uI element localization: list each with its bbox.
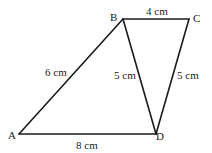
edge-label-ab: 6 cm: [45, 66, 67, 78]
edge-label-ad: 8 cm: [76, 139, 98, 151]
edge-label-bc: 4 cm: [146, 5, 168, 17]
edge-labels: 6 cm 4 cm 5 cm 5 cm 8 cm: [45, 5, 199, 151]
edge-label-bd: 5 cm: [114, 69, 136, 81]
edge-ab: [19, 19, 123, 134]
geometry-diagram: A B C D 6 cm 4 cm 5 cm 5 cm 8 cm: [0, 0, 212, 153]
edge-label-cd: 5 cm: [177, 69, 199, 81]
vertex-label-a: A: [8, 129, 16, 141]
vertex-label-c: C: [193, 12, 200, 24]
vertex-labels: A B C D: [8, 11, 200, 142]
vertex-label-b: B: [110, 11, 117, 23]
vertex-label-d: D: [156, 130, 164, 142]
